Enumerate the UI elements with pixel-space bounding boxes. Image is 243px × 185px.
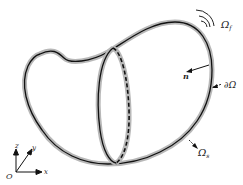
section-front-halo <box>98 48 116 163</box>
wave-icon <box>196 10 214 27</box>
axis-origin-label: O <box>6 172 13 181</box>
solid-pointer-icon <box>189 140 198 149</box>
domain-diagram: Ωf n ∂Ω Ωs z y x O <box>0 0 243 185</box>
axis-label-z: z <box>14 142 19 150</box>
label-normal-vector: n <box>183 71 189 81</box>
label-boundary: ∂Ω <box>224 80 237 90</box>
axes-icon <box>14 149 43 175</box>
label-fluid-domain: Ωf <box>220 19 233 32</box>
normal-arrow-icon <box>186 65 209 73</box>
axis-label-y: y <box>31 144 37 152</box>
axis-label-x: x <box>44 168 48 176</box>
label-solid-domain: Ωs <box>197 147 209 159</box>
